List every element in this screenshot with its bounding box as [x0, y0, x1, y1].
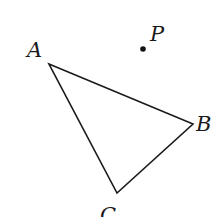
- geometry-diagram: A P B C: [0, 0, 222, 217]
- point-p-dot: [140, 46, 146, 52]
- label-vertex-b: B: [195, 112, 211, 136]
- triangle-abc: [49, 64, 193, 193]
- label-vertex-c: C: [100, 203, 116, 217]
- label-vertex-a: A: [25, 38, 42, 62]
- label-point-p: P: [149, 22, 165, 46]
